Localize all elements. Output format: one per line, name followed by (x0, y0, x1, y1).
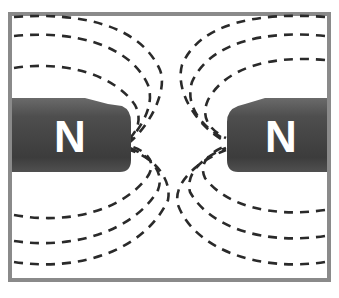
right-pole-label: N (265, 112, 297, 161)
right-magnet: N (227, 98, 327, 172)
left-pole-label: N (54, 112, 86, 161)
left-magnet: N (12, 98, 131, 172)
magnetic-field-diagram: N N (0, 0, 339, 298)
